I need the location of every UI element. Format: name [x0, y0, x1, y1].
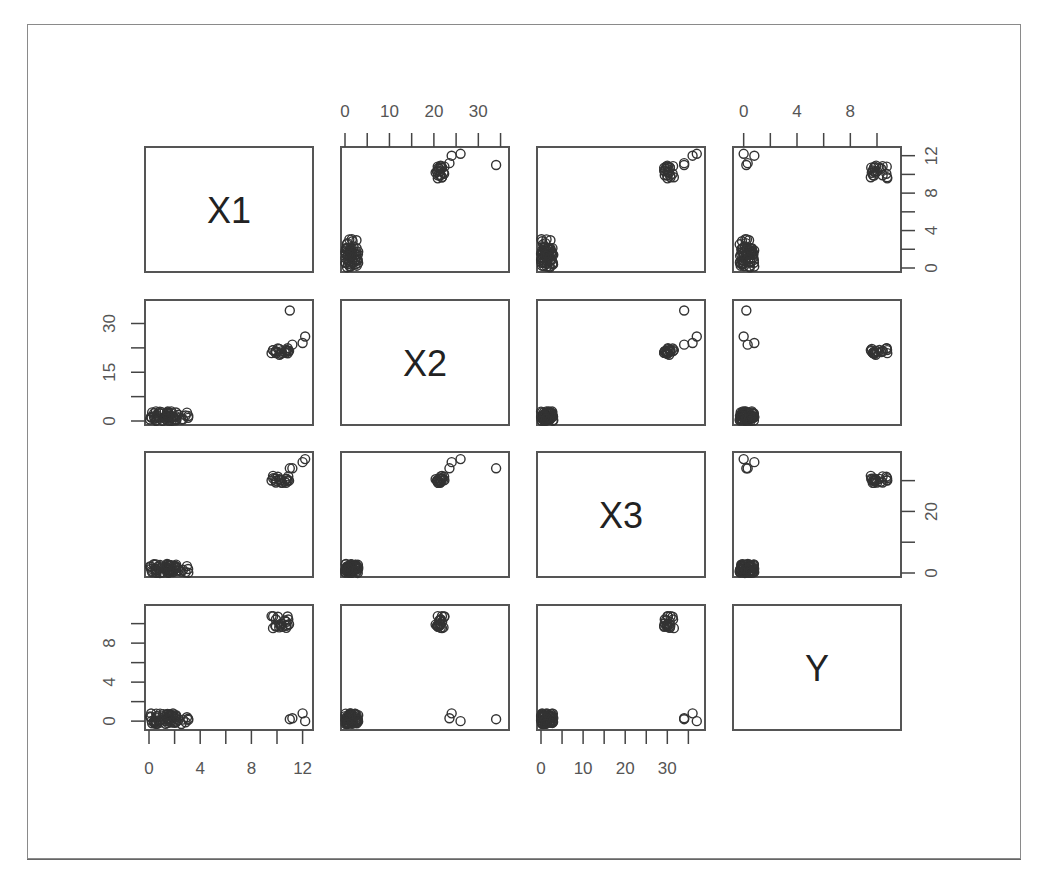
- tick-label: 20: [424, 102, 443, 121]
- diagonal-panel-x3: X3: [537, 452, 705, 577]
- tick-label: 8: [922, 188, 941, 197]
- tick-label: 0: [340, 102, 349, 121]
- tick-label: 0: [100, 716, 119, 725]
- scatter-panel-x1-vs-x3: [537, 147, 705, 272]
- variable-label: X2: [403, 343, 447, 384]
- tick-label: 30: [100, 314, 119, 333]
- tick-label: 4: [100, 677, 119, 686]
- variable-label: X1: [207, 190, 251, 231]
- tick-label: 20: [616, 759, 635, 778]
- scatterplot-matrix: X1X2X3Y010203004804812010203004812020015…: [0, 0, 1047, 876]
- variable-label: X3: [599, 495, 643, 536]
- scatter-panel-x3-vs-y: [733, 452, 901, 577]
- diagonal-panel-x2: X2: [341, 300, 509, 425]
- tick-label: 0: [536, 759, 545, 778]
- scatter-panel-x1-vs-x2: [341, 147, 509, 272]
- tick-label: 20: [922, 502, 941, 521]
- tick-label: 10: [574, 759, 593, 778]
- diagonal-panel-y: Y: [733, 605, 901, 730]
- scatter-panel-y-vs-x1: [145, 605, 313, 730]
- tick-label: 4: [195, 759, 204, 778]
- tick-label: 12: [293, 759, 312, 778]
- tick-label: 15: [100, 363, 119, 382]
- tick-label: 0: [922, 568, 941, 577]
- scatter-panel-x3-vs-x1: [145, 452, 313, 577]
- tick-label: 8: [846, 102, 855, 121]
- scatter-panel-x3-vs-x2: [341, 452, 509, 577]
- tick-label: 0: [144, 759, 153, 778]
- scatter-panel-y-vs-x2: [341, 605, 509, 730]
- tick-label: 4: [792, 102, 801, 121]
- tick-label: 12: [922, 146, 941, 165]
- tick-label: 0: [922, 263, 941, 272]
- scatter-panel-y-vs-x3: [537, 605, 705, 730]
- tick-label: 8: [100, 638, 119, 647]
- tick-label: 30: [469, 102, 488, 121]
- scatter-panel-x2-vs-y: [733, 300, 901, 425]
- tick-label: 0: [739, 102, 748, 121]
- tick-label: 30: [658, 759, 677, 778]
- tick-label: 10: [380, 102, 399, 121]
- tick-label: 8: [247, 759, 256, 778]
- scatter-panel-x2-vs-x3: [537, 300, 705, 425]
- scatter-panel-x1-vs-y: [733, 147, 901, 272]
- scatter-panel-x2-vs-x1: [145, 300, 313, 425]
- tick-label: 4: [922, 226, 941, 235]
- variable-label: Y: [805, 648, 829, 689]
- tick-label: 0: [100, 416, 119, 425]
- diagonal-panel-x1: X1: [145, 147, 313, 272]
